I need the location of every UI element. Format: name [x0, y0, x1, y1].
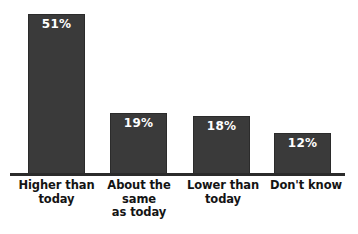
x-axis-baseline — [10, 173, 345, 176]
category-label-line: About the — [92, 179, 186, 193]
category-label-dont-know: Don't know — [260, 179, 352, 193]
bar-dont-know[interactable]: 12% — [274, 133, 331, 174]
bar-about-the-same-as-today[interactable]: 19% — [110, 113, 167, 174]
category-label-about-the-same-as-today: About the same as today — [92, 179, 186, 220]
bar-value-label: 12% — [275, 137, 330, 150]
category-label-line: today — [178, 193, 268, 207]
bar-chart: 51% 19% 18% 12% Higher than today About … — [0, 0, 358, 234]
category-label-line: same — [92, 193, 186, 207]
category-label-line: as today — [92, 206, 186, 220]
plot-area: 51% 19% 18% 12% Higher than today About … — [0, 0, 358, 234]
category-label-lower-than-today: Lower than today — [178, 179, 268, 206]
category-label-line: Lower than — [178, 179, 268, 193]
bar-lower-than-today[interactable]: 18% — [193, 116, 250, 174]
category-label-line: Don't know — [260, 179, 352, 193]
bar-higher-than-today[interactable]: 51% — [28, 14, 85, 174]
bar-value-label: 18% — [194, 120, 249, 133]
bar-value-label: 19% — [111, 117, 166, 130]
bar-value-label: 51% — [29, 18, 84, 31]
